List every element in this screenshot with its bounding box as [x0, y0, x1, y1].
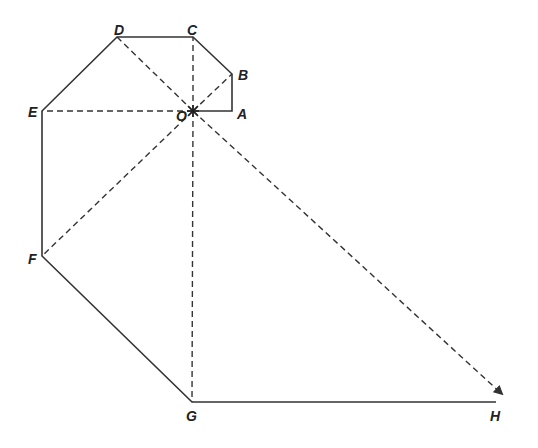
dashed-ray-O-H — [193, 111, 502, 394]
label-G: G — [186, 408, 197, 424]
dashed-ray-O-B — [193, 74, 232, 111]
label-F: F — [28, 251, 37, 267]
label-H: H — [490, 408, 501, 424]
vector-path-diagram: ABCDEFGHO — [0, 0, 538, 448]
solid-path — [42, 37, 496, 402]
label-B: B — [238, 67, 248, 83]
label-A: A — [236, 106, 247, 122]
dashed-ray-O-D — [117, 37, 193, 111]
origin-star-icon — [187, 105, 199, 117]
point-labels: ABCDEFGHO — [28, 22, 501, 424]
label-D: D — [114, 22, 124, 38]
label-E: E — [28, 104, 38, 120]
dashed-ray-O-F — [42, 111, 193, 256]
label-C: C — [187, 22, 198, 38]
solid-polyline — [42, 37, 496, 402]
label-O: O — [176, 108, 187, 124]
dashed-rays — [42, 37, 502, 402]
dashed-ray-O-G — [192, 111, 193, 402]
